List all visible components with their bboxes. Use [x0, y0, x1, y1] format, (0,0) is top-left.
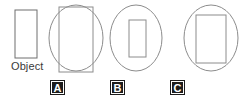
choice-a-shape-group[interactable] — [49, 5, 103, 72]
choice-label-c[interactable]: C — [170, 80, 185, 95]
choice-label-c-text: C — [171, 81, 184, 94]
choice-b-ellipse — [110, 5, 162, 71]
choice-a-ellipse — [49, 5, 103, 71]
choice-label-a[interactable]: A — [50, 80, 65, 95]
object-rectangle — [15, 10, 37, 58]
choice-c-shape-group[interactable] — [184, 5, 238, 71]
choice-label-a-text: A — [51, 81, 64, 94]
diagram-canvas — [0, 0, 250, 100]
choice-a-rectangle — [59, 7, 93, 72]
figure-container: Object A B C — [0, 0, 250, 100]
object-caption: Object — [11, 60, 43, 73]
choice-b-rectangle — [129, 20, 146, 57]
choice-b-shape-group[interactable] — [110, 5, 162, 71]
choice-c-rectangle — [196, 15, 226, 63]
choice-label-b[interactable]: B — [110, 80, 125, 95]
choice-label-b-text: B — [111, 81, 124, 94]
